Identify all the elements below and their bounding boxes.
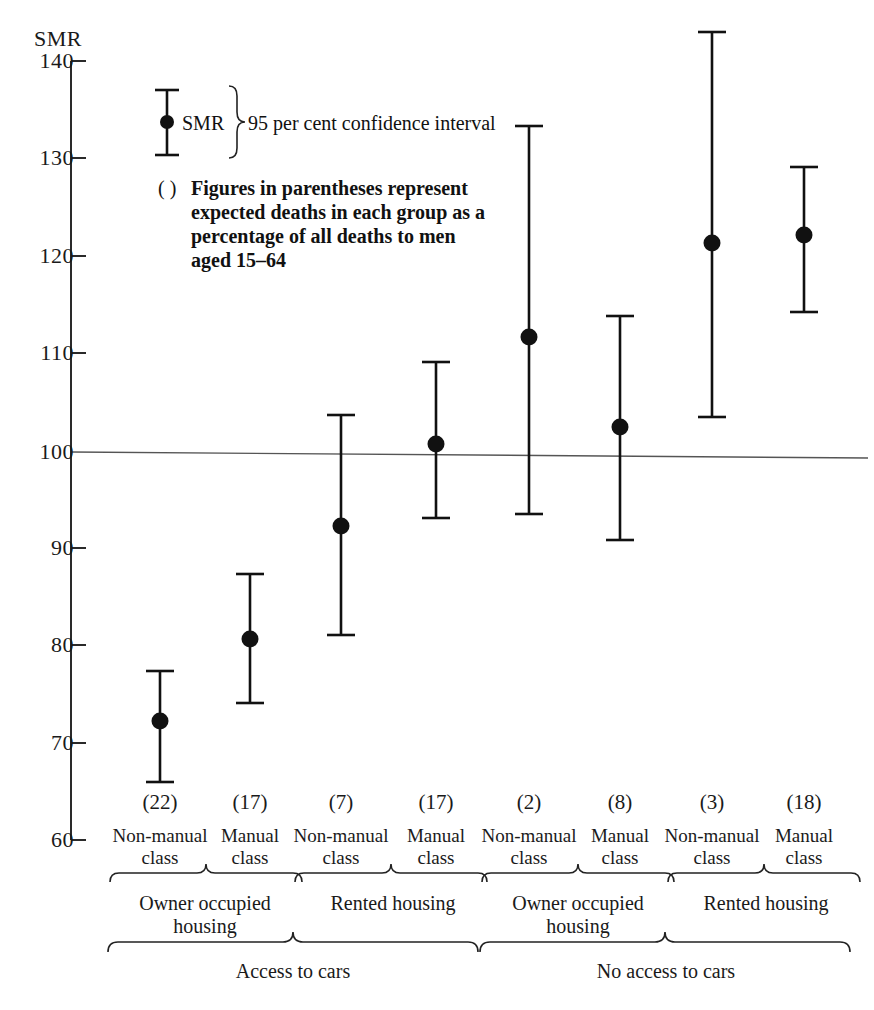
legend-note-line-1: Figures in parentheses represent	[191, 177, 468, 201]
errorbar-3	[327, 415, 355, 635]
count-label-8: (18)	[759, 790, 849, 815]
errorbar-1	[146, 671, 174, 782]
count-label-3: (7)	[296, 790, 386, 815]
category-label-8-line2: class	[749, 847, 859, 869]
group-label-4: Rented housing	[661, 892, 871, 915]
y-tick-label-130: 130	[22, 145, 74, 171]
legend-note-line-3: percentage of all deaths to men	[191, 225, 456, 249]
errorbar-8	[790, 167, 818, 312]
group-label-3: Owner occupied housing	[473, 892, 683, 938]
supergroup-label-1: Access to cars	[163, 960, 423, 983]
category-label-8-line1: Manual	[749, 825, 859, 847]
errorbar-4	[422, 362, 450, 518]
group-label-1-line1: Owner occupied	[100, 892, 310, 915]
group-label-1: Owner occupied housing	[100, 892, 310, 938]
supergroup-label-2: No access to cars	[536, 960, 796, 983]
count-label-5: (2)	[484, 790, 574, 815]
y-tick-label-140: 140	[22, 48, 74, 74]
legend-note-line-4: aged 15–64	[191, 249, 286, 273]
group-label-2: Rented housing	[288, 892, 498, 915]
errorbar-6	[606, 316, 634, 540]
count-label-6: (8)	[575, 790, 665, 815]
y-tick-label-120: 120	[22, 243, 74, 269]
category-label-3-line1: Non-manual	[286, 825, 396, 847]
y-tick-label-60: 60	[22, 827, 74, 853]
group-label-2-line1: Rented housing	[288, 892, 498, 915]
count-label-7: (3)	[667, 790, 757, 815]
reference-line-100	[71, 452, 868, 458]
legend-parenthesis-mark: ( )	[158, 177, 176, 200]
legend-brace	[229, 86, 245, 158]
count-label-1: (22)	[115, 790, 205, 815]
legend-sample-errorbar	[155, 90, 179, 155]
smr-chart: SMR 140 130 120 110 100 90 80 70 60 SMR …	[0, 0, 874, 1010]
errorbar-7	[698, 32, 726, 417]
y-tick-label-110: 110	[22, 340, 74, 366]
category-label-8: Manual class	[749, 825, 859, 868]
errorbar-2	[236, 574, 264, 703]
group-label-4-line1: Rented housing	[661, 892, 871, 915]
y-tick-label-100: 100	[22, 439, 74, 465]
y-tick-label-80: 80	[22, 632, 74, 658]
category-label-3: Non-manual class	[286, 825, 396, 868]
category-label-3-line2: class	[286, 847, 396, 869]
y-tick-label-70: 70	[22, 730, 74, 756]
y-tick-label-90: 90	[22, 535, 74, 561]
group-label-3-line1: Owner occupied	[473, 892, 683, 915]
count-label-2: (17)	[205, 790, 295, 815]
legend-ci-label: 95 per cent confidence interval	[248, 112, 496, 135]
group-label-3-line2: housing	[473, 915, 683, 938]
legend-smr-label: SMR	[182, 112, 224, 135]
legend-note-line-2: expected deaths in each group as a	[191, 201, 485, 225]
count-label-4: (17)	[391, 790, 481, 815]
group-label-1-line2: housing	[100, 915, 310, 938]
